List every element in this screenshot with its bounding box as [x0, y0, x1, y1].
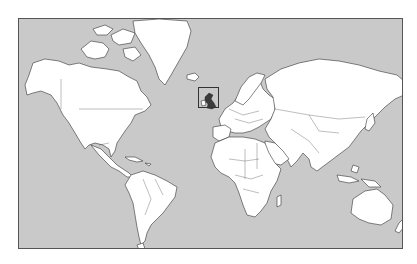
indonesia-islands [337, 165, 381, 187]
world-map: United Kingdom [18, 18, 403, 249]
madagascar-landmass [277, 195, 281, 207]
caribbean-islands [125, 157, 151, 166]
new-zealand-landmass [395, 219, 403, 233]
greenland-landmass [133, 19, 191, 85]
world-map-svg [19, 19, 403, 249]
arctic-islands [81, 25, 141, 61]
australia-landmass [351, 189, 393, 225]
highlight-frame: United Kingdom [198, 87, 219, 108]
tierra-del-fuego [137, 243, 145, 249]
north-america-landmass [25, 59, 151, 157]
iceland-landmass [187, 73, 199, 81]
south-america-landmass [125, 171, 177, 245]
